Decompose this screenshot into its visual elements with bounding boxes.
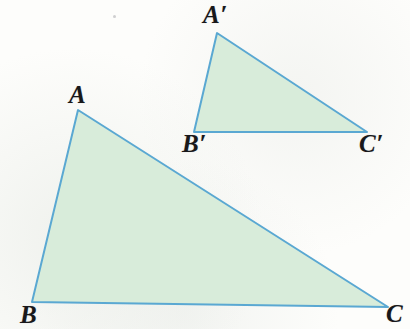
triangle-a-prime-b-prime-c-prime-shape [194, 33, 367, 132]
vertex-label-b: B [20, 302, 37, 327]
vertex-label-a-prime: A′ [203, 2, 228, 27]
vertex-label-c-prime: C′ [359, 131, 384, 156]
vertex-label-c: C [386, 301, 403, 326]
figure-canvas [0, 0, 410, 329]
triangle-abc-shape [32, 110, 388, 307]
similar-triangles-figure: A B C A′ B′ C′ [0, 0, 410, 329]
vertex-label-a: A [69, 82, 86, 107]
vertex-label-b-prime: B′ [182, 131, 207, 156]
